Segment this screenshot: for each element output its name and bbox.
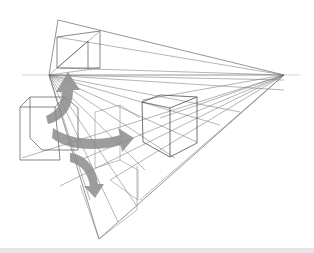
curved-arrow-right-icon — [52, 128, 134, 152]
right-cube — [142, 95, 197, 157]
bottom-scroll-strip — [0, 248, 314, 253]
outer-frame — [49, 20, 284, 239]
right-vp-rays — [22, 37, 284, 200]
left-vp-rays — [49, 31, 284, 222]
perspective-diagram — [0, 0, 314, 253]
